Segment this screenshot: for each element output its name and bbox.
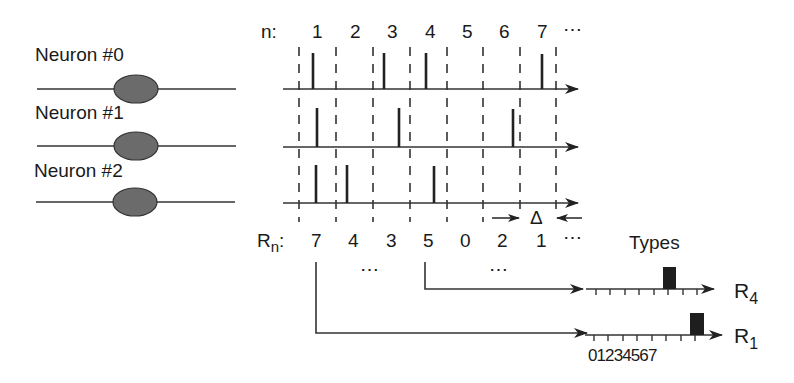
neuron-1-soma-icon bbox=[114, 132, 158, 160]
n-value-1: 1 bbox=[312, 21, 323, 42]
rn-value-6: 2 bbox=[497, 230, 508, 251]
neuron-0: Neuron #0 bbox=[35, 44, 236, 103]
n-value-3: 3 bbox=[387, 21, 398, 42]
spike-train-2 bbox=[316, 165, 434, 203]
n-value-7: 7 bbox=[537, 21, 548, 42]
rn-value-4: 5 bbox=[423, 230, 434, 251]
neuron-1-label: Neuron #1 bbox=[35, 102, 124, 123]
rn-row: Rn: 7 4 3 5 0 2 1 ⋯ ⋯ ⋯ bbox=[257, 227, 582, 280]
histogram-r4: R4 bbox=[586, 267, 758, 307]
types-label: Types bbox=[629, 232, 680, 253]
rn-ellipsis: ⋯ bbox=[563, 227, 582, 248]
histogram-r4-bar bbox=[663, 267, 676, 289]
delta-bin-width: Δ bbox=[492, 207, 582, 228]
histogram-r4-label: R4 bbox=[734, 279, 758, 307]
type-tick-labels: 01234567 bbox=[588, 346, 657, 365]
connectors bbox=[316, 262, 587, 333]
rn-gap-ellipsis-2: ⋯ bbox=[489, 259, 508, 280]
neuron-2-label: Neuron #2 bbox=[34, 160, 123, 181]
spike-train-0 bbox=[313, 53, 542, 89]
neuron-2-soma-icon bbox=[113, 188, 157, 216]
n-value-6: 6 bbox=[499, 21, 510, 42]
neuron-1: Neuron #1 bbox=[35, 102, 236, 160]
delta-label: Δ bbox=[530, 207, 543, 228]
neuron-0-label: Neuron #0 bbox=[35, 44, 124, 65]
n-value-4: 4 bbox=[425, 21, 436, 42]
neuron-0-soma-icon bbox=[114, 75, 158, 103]
histogram-r1: R1 01234567 bbox=[585, 313, 758, 365]
neuron-2: Neuron #2 bbox=[34, 160, 235, 216]
n-value-2: 2 bbox=[350, 21, 361, 42]
connector-r1 bbox=[316, 262, 587, 333]
bin-boundaries bbox=[299, 47, 556, 222]
rn-value-7: 1 bbox=[536, 230, 547, 251]
rn-value-2: 4 bbox=[348, 230, 359, 251]
n-value-5: 5 bbox=[462, 21, 473, 42]
histogram-r1-bar bbox=[690, 313, 704, 335]
n-label: n: bbox=[261, 21, 277, 42]
rn-value-3: 3 bbox=[386, 230, 397, 251]
histogram-r1-label: R1 bbox=[734, 324, 758, 352]
spike-train-axes bbox=[283, 89, 578, 203]
time-bin-header: n: 1 2 3 4 5 6 7 ⋯ bbox=[261, 19, 582, 42]
n-ellipsis: ⋯ bbox=[563, 19, 582, 40]
rn-label: Rn: bbox=[257, 230, 284, 255]
rn-gap-ellipsis-1: ⋯ bbox=[360, 259, 379, 280]
rn-value-5: 0 bbox=[460, 230, 471, 251]
rn-value-1: 7 bbox=[311, 230, 322, 251]
spike-train-1 bbox=[317, 108, 513, 147]
